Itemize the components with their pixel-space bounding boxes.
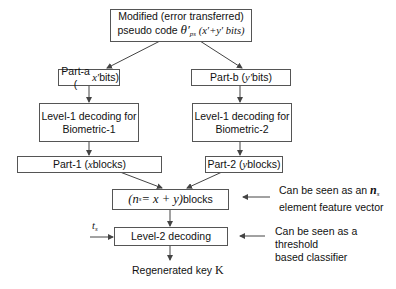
annotation1-line2: element feature vector [279,201,383,214]
top-line2: pseudo code θ′ps (x′+y′ bits) [118,23,245,41]
combined-expr-rest: = x + y) [141,193,183,206]
part-a-box: Part-a (x′ bits) [58,69,120,86]
annotation-threshold-classifier: Can be seen as a threshold based classif… [275,225,396,264]
annotation1-line1: Can be seen as an [279,184,370,196]
combined-suffix: blocks [183,193,213,206]
annotation2-line2: based classifier [275,251,396,264]
part-2-label: Part-2 ( [208,158,243,171]
level1-right-line1: Level-1 decoding for [194,110,289,123]
part-a-suffix: bits) [99,71,119,84]
part-2-suffix: blocks) [247,158,280,171]
key-symbol: K [215,263,224,277]
part-b-suffix: bits) [252,71,272,84]
part-a-label: Part-a ( [59,65,92,91]
level1-right-line2: Biometric-2 [215,123,268,136]
theta-symbol: θ′ [181,22,190,37]
part-b-label: Part-b ( [210,71,245,84]
combined-expr-open: (n [128,193,138,206]
part-b-var: y′ [245,71,252,84]
modified-pseudo-code-box: Modified (error transferred) pseudo code… [110,9,252,42]
top-line2-prefix: pseudo code [118,24,181,36]
annotation1-symbol: n [370,183,377,197]
regenerated-key-text: Regenerated key [132,264,215,276]
threshold-sub: s [95,225,98,233]
combined-blocks-box: (ns = x + y) blocks [112,189,229,210]
level1-decoding-biometric1-box: Level-1 decoding for Biometric-1 [39,103,139,142]
annotation1-sub: s [377,190,380,198]
annotation-feature-vector: Can be seen as an ns element feature vec… [279,184,383,214]
part-a-var: x′ [92,71,99,84]
level1-left-line2: Biometric-1 [62,123,115,136]
level2-label: Level-2 decoding [131,230,211,243]
top-bits: (x′+y′ bits) [196,25,244,36]
threshold-input-label: ts [92,219,98,236]
level1-left-line1: Level-1 decoding for [41,110,136,123]
part-1-box: Part-1 (x blocks) [17,156,162,173]
part-1-label: Part-1 ( [53,158,88,171]
part-2-box: Part-2 (y blocks) [205,156,283,173]
part-b-box: Part-b (y′ bits) [191,69,291,86]
level1-decoding-biometric2-box: Level-1 decoding for Biometric-2 [192,103,292,142]
annotation2-line1: Can be seen as a threshold [275,225,396,251]
part-1-suffix: blocks) [93,158,126,171]
regenerated-key-label: Regenerated key K [132,264,224,277]
level2-decoding-box: Level-2 decoding [114,227,228,246]
